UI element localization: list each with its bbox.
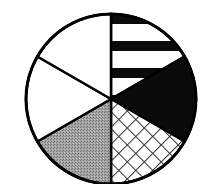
- pie-chart: [0, 0, 200, 184]
